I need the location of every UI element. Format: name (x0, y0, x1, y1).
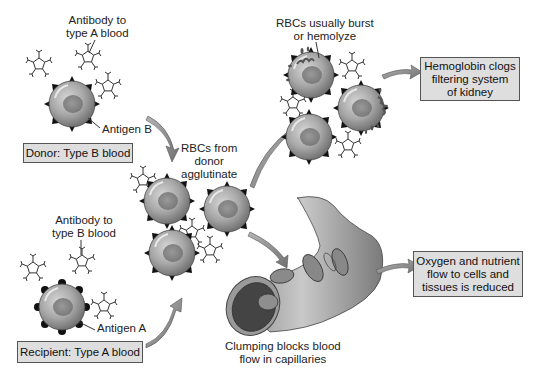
oxygen-outcome-line1: Oxygen and nutrient (416, 255, 520, 268)
oxygen-outcome-line3: tissues is reduced (422, 281, 514, 294)
agglutination-label-line1: RBCs from (181, 142, 237, 155)
recipient-rbc (34, 279, 90, 335)
recipient-antibody-label-line2: type B blood (52, 227, 116, 240)
donor-antibody-label: Antibody to type A blood (66, 14, 129, 40)
recipient-type-label: Recipient: Type A blood (20, 346, 140, 359)
recipient-type-box: Recipient: Type A blood (17, 341, 143, 363)
kidney-outcome-line3: of kidney (447, 86, 493, 99)
hemolysis-label-line1: RBCs usually burst (276, 17, 374, 30)
kidney-outcome-line2: filtering system (432, 73, 509, 86)
capillary-label-line1: Clumping blocks blood (225, 340, 341, 353)
agglutination-label-line2: donor (181, 155, 237, 168)
transfusion-reaction-diagram: Antibody to type A blood Antigen B Donor… (0, 0, 541, 383)
donor-antibody-label-line1: Antibody to (66, 14, 129, 27)
donor-type-box: Donor: Type B blood (23, 143, 133, 163)
kidney-outcome-box: Hemoglobin clogs filtering system of kid… (420, 57, 520, 101)
recipient-antibody-label: Antibody to type B blood (52, 214, 116, 240)
hemolysis-to-kidney-arrow (382, 65, 422, 79)
hemolysis-label: RBCs usually burst or hemolyze (276, 17, 374, 43)
hemolysis-cluster (280, 47, 389, 166)
agglutination-label-line3: agglutinate (181, 168, 237, 181)
kidney-outcome-line1: Hemoglobin clogs (424, 60, 515, 73)
agglutination-label: RBCs from donor agglutinate (181, 142, 237, 181)
hemolysis-label-line2: or hemolyze (276, 30, 374, 43)
antigen-b-label: Antigen B (102, 123, 152, 136)
oxygen-outcome-line2: flow to cells and (427, 268, 509, 281)
oxygen-outcome-box: Oxygen and nutrient flow to cells and ti… (413, 251, 523, 297)
antigen-a-label: Antigen A (97, 322, 146, 335)
donor-antibody-pointer (89, 40, 95, 53)
recipient-antibody-label-line1: Antibody to (52, 214, 116, 227)
capillary-label: Clumping blocks blood flow in capillarie… (225, 340, 341, 366)
capillary-label-line2: flow in capillaries (225, 353, 341, 366)
donor-type-label: Donor: Type B blood (26, 147, 131, 160)
donor-rbc (44, 76, 100, 132)
donor-antibody-label-line2: type A blood (66, 27, 129, 40)
agglutinated-cluster (130, 166, 255, 281)
agglutination-to-capillary-arrow (248, 232, 288, 268)
recipient-to-agglutination-arrow (146, 298, 182, 348)
